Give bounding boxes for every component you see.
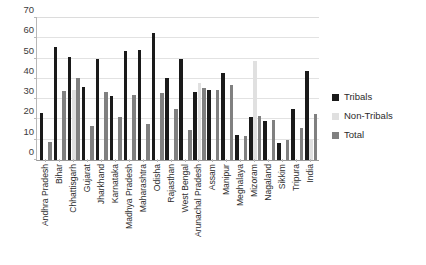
bar <box>253 61 257 160</box>
bar <box>286 140 290 160</box>
bar <box>76 78 80 160</box>
x-axis-label-cell: Chhattisgarh <box>66 162 80 262</box>
y-tick-label-0: 0 <box>4 147 34 156</box>
bar-group <box>206 18 220 160</box>
bar <box>96 59 100 160</box>
x-tick-mark <box>129 159 130 162</box>
bar-group <box>123 18 137 160</box>
x-axis-label-cell: Meghalaya <box>233 162 247 262</box>
x-tick-mark <box>143 159 144 162</box>
bar <box>124 51 128 160</box>
x-axis-label-cell: Mizoram <box>247 162 261 262</box>
bar <box>146 124 150 160</box>
x-axis-label-cell: West Bengal <box>178 162 192 262</box>
x-axis-label: Rajasthan <box>166 164 175 203</box>
x-axis-label-cell: Tripura <box>289 162 303 262</box>
bar-group <box>276 18 290 160</box>
x-axis-label-cell: Maharashtra <box>136 162 150 262</box>
bar <box>72 90 76 160</box>
bar <box>110 96 114 160</box>
bar-group <box>262 18 276 160</box>
x-axis-label: Maharashtra <box>138 164 147 212</box>
bar <box>291 109 295 160</box>
legend-swatch-gray <box>332 132 339 139</box>
x-tick-mark <box>115 159 116 162</box>
x-axis-label: Karnataka <box>110 164 119 203</box>
bar <box>198 83 202 160</box>
x-axis-label-cell: Karnataka <box>108 162 122 262</box>
x-axis-label-cell: Jharkhand <box>94 162 108 262</box>
legend-label: Tribals <box>344 92 372 102</box>
x-tick-mark <box>45 159 46 162</box>
x-tick-mark <box>310 159 311 162</box>
bar <box>118 117 122 160</box>
bar-group <box>304 18 318 160</box>
x-axis-label: Tripura <box>292 164 301 191</box>
bar <box>305 71 309 160</box>
bar-groups <box>37 18 319 160</box>
bar-group <box>53 18 67 160</box>
bar <box>272 120 276 160</box>
bar <box>249 117 253 160</box>
bar <box>300 128 304 160</box>
bar <box>104 92 108 160</box>
x-axis-label: Sikkim <box>278 164 287 189</box>
bar <box>258 116 262 160</box>
bar <box>179 59 183 160</box>
bar <box>216 90 220 160</box>
x-axis-label-cell: Odisha <box>150 162 164 262</box>
x-tick-mark <box>101 159 102 162</box>
x-axis-label: Andhra Pradesh <box>40 164 49 226</box>
y-tick-label-10: 10 <box>4 126 34 135</box>
legend-swatch-light-gray <box>332 113 339 120</box>
bar-group <box>165 18 179 160</box>
legend-label: Total <box>344 130 364 140</box>
x-tick-mark <box>212 159 213 162</box>
bar-group <box>39 18 53 160</box>
x-axis-label-cell: Nagaland <box>261 162 275 262</box>
bar <box>314 114 318 160</box>
x-tick-mark <box>198 159 199 162</box>
x-axis-label-cell: Andhra Pradesh <box>38 162 52 262</box>
bar <box>207 90 211 160</box>
bar <box>188 130 192 160</box>
bar-group <box>248 18 262 160</box>
x-axis-label-cell: Bihar <box>52 162 66 262</box>
x-axis-label: Mizoram <box>250 164 259 197</box>
legend-item[interactable]: Non-Tribals <box>332 111 393 121</box>
bar-group <box>81 18 95 160</box>
plot-area <box>36 18 319 161</box>
x-axis-label-cell: Rajasthan <box>164 162 178 262</box>
x-axis-label-cell: Gujarat <box>80 162 94 262</box>
bar <box>82 87 86 160</box>
x-tick-mark <box>59 159 60 162</box>
bar <box>221 73 225 160</box>
x-tick-mark <box>296 159 297 162</box>
x-tick-mark <box>254 159 255 162</box>
bar-group <box>179 18 193 160</box>
x-axis-label: Jharkhand <box>96 164 105 204</box>
bar <box>202 88 206 160</box>
chart-legend: TribalsNon-TribalsTotal <box>332 92 393 140</box>
x-axis-label: Meghalaya <box>236 164 245 206</box>
bar-group <box>137 18 151 160</box>
bar <box>152 33 156 160</box>
bar <box>309 140 313 160</box>
x-axis-label: Nagaland <box>264 164 273 201</box>
legend-item[interactable]: Total <box>332 130 393 140</box>
bar <box>193 92 197 160</box>
x-axis-label: Chhattisgarh <box>68 164 77 213</box>
x-axis-label-cell: Sikkim <box>275 162 289 262</box>
x-tick-mark <box>87 159 88 162</box>
x-axis-label-cell: Arunachal Pradesh <box>191 162 205 262</box>
legend-swatch-black <box>332 94 339 101</box>
bar <box>165 78 169 160</box>
x-axis-label: Arunachal Pradesh <box>194 164 203 237</box>
x-axis-label: Assam <box>208 164 217 190</box>
y-tick-label-40: 40 <box>4 65 34 74</box>
x-axis-label-cell: Manipur <box>219 162 233 262</box>
legend-item[interactable]: Tribals <box>332 92 393 102</box>
bar <box>244 136 248 160</box>
x-tick-mark <box>73 159 74 162</box>
y-tick-label-50: 50 <box>4 45 34 54</box>
